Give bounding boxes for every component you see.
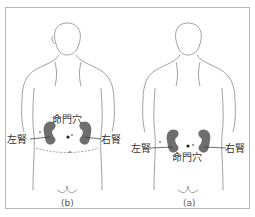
markers-b (39, 131, 73, 153)
label-b-right-kidney: 右腎 (101, 134, 121, 145)
torso-illustrations (0, 0, 255, 217)
label-b-left-kidney: 左腎 (7, 134, 27, 145)
torso-a-outline (143, 23, 236, 193)
label-a-acupoint: 命門穴 (172, 152, 202, 163)
caption-a: (a) (183, 198, 196, 208)
label-a-left-kidney: 左腎 (131, 143, 151, 154)
kidneys-a (167, 129, 211, 152)
label-a-right-kidney: 右腎 (225, 143, 245, 154)
leader-lines-b (30, 137, 101, 139)
label-b-acupoint: 命門穴 (52, 114, 82, 125)
caption-b: (b) (61, 198, 74, 208)
torso-b-outline (22, 23, 115, 193)
